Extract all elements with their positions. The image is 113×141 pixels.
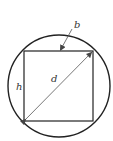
diagonal-d-line	[26, 53, 92, 120]
label-b: b	[74, 19, 80, 30]
b-pointer-arrow	[61, 29, 73, 50]
inscribed-rectangle-diagram: b d h	[0, 0, 113, 141]
label-h: h	[16, 81, 22, 92]
label-d: d	[51, 73, 57, 84]
